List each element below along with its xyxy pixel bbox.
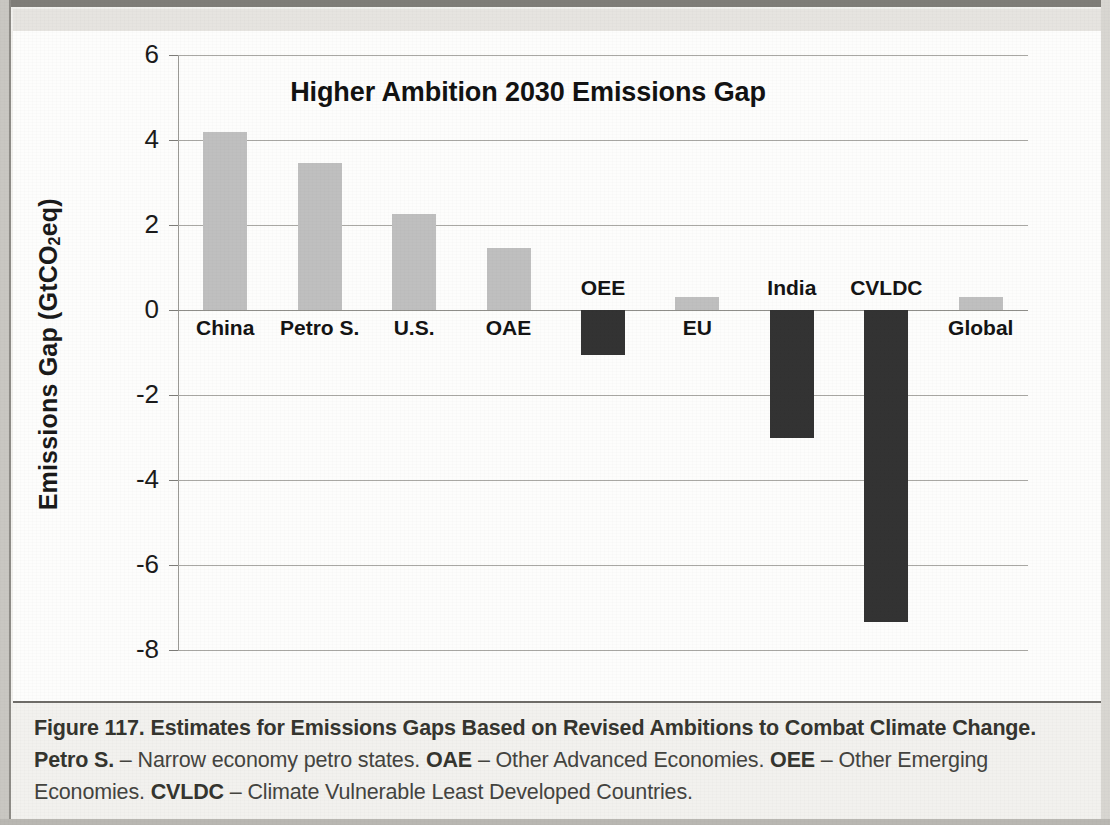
y-axis-line <box>178 55 179 650</box>
y-tick--4 <box>169 480 178 481</box>
y-axis-title-subscript: 2 <box>46 236 63 245</box>
y-tick--2 <box>169 395 178 396</box>
y-tick--6 <box>169 565 178 566</box>
y-axis-title-pre: Emissions Gap (GtCO <box>34 245 62 510</box>
bar-label-global: Global <box>948 316 1013 340</box>
y-tick-label--6: -6 <box>99 549 159 580</box>
bar-global <box>959 297 1003 310</box>
caption-segment-7: – Climate Vulnerable Least Developed Cou… <box>224 780 693 804</box>
figure-page: Emissions Gap (GtCO2eq) Higher Ambition … <box>0 0 1110 825</box>
caption-segment-4: OEE <box>770 748 815 772</box>
y-tick-label-6: 6 <box>99 39 159 70</box>
bar-chart: Emissions Gap (GtCO2eq) Higher Ambition … <box>13 9 1101 702</box>
y-tick-label-0: 0 <box>99 294 159 325</box>
bar-label-u-s: U.S. <box>394 316 435 340</box>
caption-divider <box>13 701 1101 703</box>
y-tick--8 <box>169 650 178 651</box>
bar-label-india: India <box>767 276 816 300</box>
gridline-6 <box>178 55 1028 56</box>
scan-edge-right <box>1101 0 1110 825</box>
bar-oee <box>581 310 625 355</box>
plot-area: 6420-2-4-6-8 ChinaPetro S.U.S.OAEOEEEUIn… <box>178 55 1028 650</box>
gridline--8 <box>178 650 1028 651</box>
caption-segment-6: CVLDC <box>151 780 224 804</box>
gridline-4 <box>178 140 1028 141</box>
y-tick-2 <box>169 225 178 226</box>
bar-oae <box>487 248 531 310</box>
bar-u-s <box>392 214 436 310</box>
caption-segment-1: – Narrow economy petro states. <box>114 748 426 772</box>
chart-panel: Emissions Gap (GtCO2eq) Higher Ambition … <box>13 9 1101 702</box>
bar-label-china: China <box>196 316 254 340</box>
figure-caption: Figure 117. Estimates for Emissions Gaps… <box>34 712 1074 808</box>
scan-edge-bottom <box>0 819 1110 825</box>
bar-india <box>770 310 814 438</box>
scan-edge-left <box>0 0 11 825</box>
bar-cvldc <box>864 310 908 622</box>
y-tick-label-4: 4 <box>99 124 159 155</box>
y-tick-6 <box>169 55 178 56</box>
y-tick-label--2: -2 <box>99 379 159 410</box>
caption-segment-3: – Other Advanced Economies. <box>472 748 770 772</box>
bar-eu <box>675 297 719 310</box>
bar-label-oae: OAE <box>486 316 532 340</box>
bar-label-petro-s: Petro S. <box>280 316 359 340</box>
bar-label-cvldc: CVLDC <box>850 276 922 300</box>
y-tick-label-2: 2 <box>99 209 159 240</box>
bar-china <box>203 132 247 311</box>
y-axis-title: Emissions Gap (GtCO2eq) <box>34 119 65 589</box>
bar-label-oee: OEE <box>581 276 625 300</box>
y-tick-label--4: -4 <box>99 464 159 495</box>
caption-segment-2: OAE <box>426 748 472 772</box>
y-tick-label--8: -8 <box>99 634 159 665</box>
scan-edge-top <box>0 0 1110 7</box>
y-axis-title-post: eq) <box>34 198 62 236</box>
y-tick-0 <box>169 310 178 311</box>
bar-petro-s <box>298 163 342 310</box>
bar-label-eu: EU <box>683 316 712 340</box>
y-tick-4 <box>169 140 178 141</box>
